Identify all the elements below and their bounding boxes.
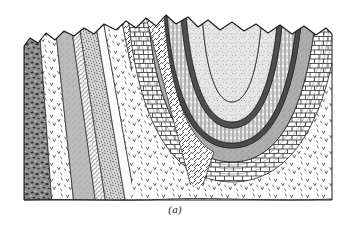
block-body xyxy=(20,10,340,210)
geologic-block-diagram xyxy=(0,0,350,234)
figure-container: (a) Pen-and-ink geologic block diagram s… xyxy=(0,0,350,234)
figure-caption: (a) xyxy=(0,203,350,215)
